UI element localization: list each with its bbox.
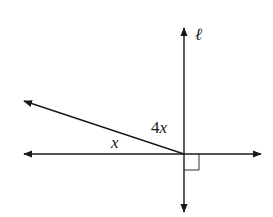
line-label: ℓ (195, 25, 202, 44)
angle-label-4x: 4x (151, 118, 168, 137)
right-angle-marker (184, 154, 199, 170)
angle-label-x: x (110, 133, 119, 152)
angle-diagram: ℓ 4x x (0, 0, 273, 217)
